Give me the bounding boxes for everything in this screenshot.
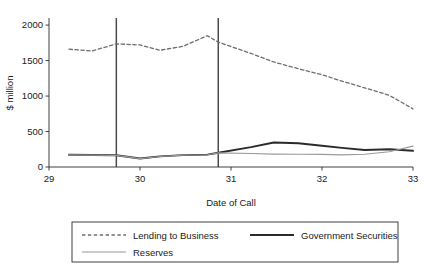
caption-clipped-text bbox=[0, 267, 425, 274]
y-tick-label: 1500 bbox=[22, 55, 43, 66]
x-axis-ticks: 2930313233 bbox=[44, 167, 419, 184]
x-tick-label: 32 bbox=[317, 173, 328, 184]
y-tick-label: 2000 bbox=[22, 19, 43, 30]
x-tick-label: 31 bbox=[226, 173, 237, 184]
data-series bbox=[69, 36, 413, 159]
y-tick-label: 1000 bbox=[22, 90, 43, 101]
y-tick-label: 500 bbox=[27, 126, 43, 137]
legend-item-reserves[interactable]: Reserves bbox=[82, 247, 173, 258]
y-axis-title: $ million bbox=[4, 76, 15, 111]
figure-container: 0500100015002000 2930313233 $ million Da… bbox=[0, 0, 425, 274]
reference-lines bbox=[116, 18, 218, 167]
y-axis-ticks: 0500100015002000 bbox=[22, 19, 49, 172]
legend-box bbox=[72, 222, 398, 262]
legend-item-lending-to-business[interactable]: Lending to Business bbox=[82, 230, 219, 241]
line-chart: 0500100015002000 2930313233 $ million Da… bbox=[0, 0, 425, 274]
y-tick-label: 0 bbox=[38, 161, 43, 172]
series-line-lending-to-business bbox=[69, 36, 413, 109]
x-tick-label: 30 bbox=[135, 173, 146, 184]
x-tick-label: 33 bbox=[408, 173, 419, 184]
plot-area: 0500100015002000 2930313233 bbox=[22, 18, 418, 184]
legend-label: Government Securities bbox=[301, 230, 398, 241]
legend-item-government-securities[interactable]: Government Securities bbox=[250, 230, 398, 241]
legend: Lending to BusinessGovernment Securities… bbox=[72, 222, 398, 262]
legend-label: Lending to Business bbox=[133, 230, 219, 241]
axes bbox=[49, 18, 413, 167]
legend-label: Reserves bbox=[133, 247, 173, 258]
x-tick-label: 29 bbox=[44, 173, 55, 184]
x-axis-title: Date of Call bbox=[206, 197, 256, 208]
